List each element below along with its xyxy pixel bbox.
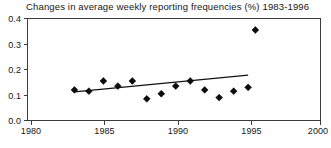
plot-frame xyxy=(28,19,321,121)
y-tick-label-0.2: 0.2 xyxy=(8,65,21,75)
data-point xyxy=(172,83,179,90)
x-tick-label-1995: 1995 xyxy=(241,126,261,136)
data-point xyxy=(86,88,93,95)
trend-line xyxy=(74,75,248,92)
x-tick-label-1985: 1985 xyxy=(94,126,114,136)
scatter-plot: 0.4 0.3 0.2 0.1 0.0 1980 1985 1990 1995 … xyxy=(0,0,331,148)
data-point xyxy=(245,84,252,91)
data-point xyxy=(201,87,208,94)
data-point xyxy=(129,78,136,85)
data-point xyxy=(100,78,107,85)
y-tick-label-0.0: 0.0 xyxy=(8,116,21,126)
x-axis-ticks: 1980 1985 1990 1995 2000 xyxy=(21,121,328,137)
y-tick-label-0.3: 0.3 xyxy=(8,40,21,50)
y-axis-ticks: 0.4 0.3 0.2 0.1 0.0 xyxy=(8,14,27,126)
data-point xyxy=(143,95,150,102)
data-point xyxy=(230,88,237,95)
data-point-group xyxy=(71,27,259,103)
y-tick-label-0.4: 0.4 xyxy=(8,14,21,24)
trend-line-group xyxy=(74,75,248,92)
data-point xyxy=(216,94,223,101)
x-tick-label-1990: 1990 xyxy=(168,126,188,136)
chart-figure: Changes in average weekly reporting freq… xyxy=(0,0,331,148)
x-tick-label-1980: 1980 xyxy=(21,126,41,136)
data-point xyxy=(187,78,194,85)
data-point xyxy=(158,90,165,97)
y-tick-label-0.1: 0.1 xyxy=(8,91,21,101)
x-tick-label-2000: 2000 xyxy=(308,126,328,136)
data-point xyxy=(252,27,259,34)
